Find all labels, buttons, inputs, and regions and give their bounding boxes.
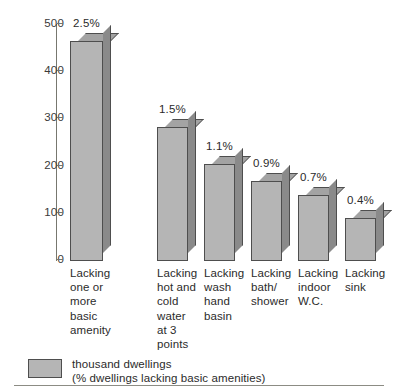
legend-label: thousand dwellings (% dwellings lacking … [72,358,266,385]
bar-front-face [298,195,329,261]
legend: thousand dwellings (% dwellings lacking … [28,358,266,385]
bar-front-face [70,41,103,261]
category-label: Lacking sink [345,266,385,294]
bar-side-face [329,179,337,253]
bar-side-face [188,111,196,253]
bar-top-face [165,119,204,127]
chart-container: 500 400 300 200 100 0 2.5%1.5%1.1%0.9%0.… [0,0,398,392]
bar: 1.1% [204,164,235,261]
bar-top-face [78,33,119,41]
bar-side-face [235,148,243,253]
bar-value-label: 0.7% [300,171,327,183]
bar-value-label: 0.9% [253,157,280,169]
bar-side-face [282,165,290,253]
bar-top-face [353,210,392,218]
bar-side-face [376,202,384,253]
bar: 1.5% [157,127,188,261]
y-tick-300: 300 [0,112,64,124]
plot-area: 500 400 300 200 100 0 2.5%1.5%1.1%0.9%0.… [0,0,398,300]
y-tick-mark-0 [57,259,63,260]
y-tick-mark-300 [57,117,63,118]
bar-side-face [103,25,111,253]
category-label: Lacking indoor W.C. [298,266,338,309]
footer-divider [14,385,384,386]
y-tick-0: 0 [0,254,64,266]
y-tick-mark-400 [57,70,63,71]
bar: 0.4% [345,218,376,261]
y-tick-100: 100 [0,207,64,219]
bar: 0.9% [251,181,282,261]
bar-value-label: 2.5% [73,17,100,29]
bar-top-face [212,156,251,164]
bar-value-label: 1.1% [206,140,233,152]
category-label: Lacking bath/ shower [251,266,291,309]
category-label: Lacking wash hand basin [204,266,244,323]
y-tick-mark-100 [57,212,63,213]
bar-value-label: 0.4% [347,194,374,206]
bar-top-face [259,173,298,181]
y-tick-500: 500 [0,18,64,30]
y-tick-400: 400 [0,65,64,77]
category-label: Lacking hot and cold water at 3 points [157,266,197,351]
y-tick-mark-500 [57,23,63,24]
bar: 2.5% [70,41,103,261]
category-label: Lacking one or more basic amenity [70,266,111,337]
y-tick-200: 200 [0,160,64,172]
bar-top-face [306,187,345,195]
bar-front-face [204,164,235,261]
bar-value-label: 1.5% [159,103,186,115]
bar-front-face [251,181,282,261]
legend-swatch-icon [28,359,62,378]
bar-front-face [345,218,376,261]
y-axis-line [56,24,57,261]
y-tick-mark-200 [57,165,63,166]
bar: 0.7% [298,195,329,261]
bar-front-face [157,127,188,261]
